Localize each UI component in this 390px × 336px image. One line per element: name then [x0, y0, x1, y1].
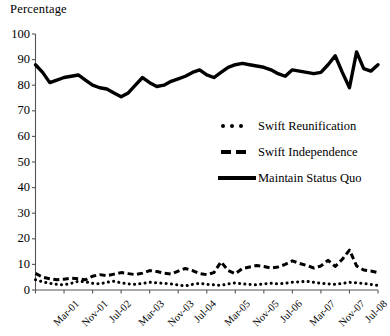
solid-bar-marker	[218, 171, 258, 185]
series-line	[36, 250, 379, 280]
y-tick-label: 50	[4, 156, 30, 169]
y-tick-label: 80	[4, 79, 30, 92]
y-tick-label: 20	[4, 232, 30, 245]
dots-marker	[218, 119, 258, 133]
y-tick-label: 70	[4, 104, 30, 117]
legend-label-maintain-status-quo: Maintain Status Quo	[258, 172, 361, 185]
y-tick-label: 60	[4, 130, 30, 143]
legend-item-swift-reunification: Swift Reunification	[218, 113, 388, 139]
legend-label-swift-reunification: Swift Reunification	[258, 120, 356, 133]
chart-legend: Swift Reunification Swift Independence M…	[218, 113, 388, 191]
y-tick-label: 40	[4, 181, 30, 194]
percentage-trend-chart: Percentage 0102030405060708090100 Mar-01…	[0, 0, 390, 336]
y-tick-label: 0	[4, 284, 30, 297]
y-tick-label: 10	[4, 258, 30, 271]
legend-item-maintain-status-quo: Maintain Status Quo	[218, 165, 388, 191]
y-tick-label: 100	[4, 28, 30, 41]
y-tick-label: 90	[4, 53, 30, 66]
legend-label-swift-independence: Swift Independence	[258, 146, 358, 159]
series-line	[36, 52, 379, 97]
legend-item-swift-independence: Swift Independence	[218, 139, 388, 165]
dashes-marker	[218, 145, 258, 159]
y-tick-label: 30	[4, 207, 30, 220]
